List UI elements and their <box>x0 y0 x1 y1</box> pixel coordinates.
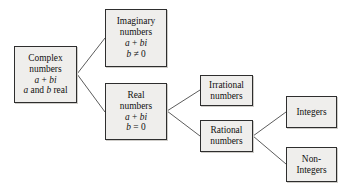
imaginary-plus-op: + <box>130 38 140 48</box>
node-non-integers[interactable]: Non- Integers <box>286 147 337 182</box>
node-imaginary-numbers[interactable]: Imaginary numbers a + bi b ≠ 0 <box>105 9 167 67</box>
node-real-line-4: b = 0 <box>126 122 145 133</box>
node-real-line-1: Real <box>127 90 144 101</box>
edge-real-irrational <box>167 90 200 111</box>
node-irrational-numbers[interactable]: Irrational numbers <box>200 75 253 106</box>
node-integers[interactable]: Integers <box>286 96 337 128</box>
complex-and-word: and <box>28 85 46 95</box>
edge-rational-integers <box>253 112 286 136</box>
real-condition: = 0 <box>131 122 146 132</box>
edge-complex-imaginary <box>77 38 105 74</box>
real-plus-op: + <box>130 112 140 122</box>
node-rational-numbers[interactable]: Rational numbers <box>200 120 253 152</box>
node-real-line-2: numbers <box>120 101 152 112</box>
imaginary-var-bi: bi <box>140 38 147 48</box>
node-integers-line-1: Integers <box>296 107 326 118</box>
complex-real-word: real <box>51 85 67 95</box>
node-real-numbers[interactable]: Real numbers a + bi b = 0 <box>105 83 167 140</box>
number-classification-diagram: Complex numbers a + bi a and b real Imag… <box>0 0 352 188</box>
imaginary-condition: ≠ 0 <box>131 49 146 59</box>
node-complex-line-2: numbers <box>29 64 61 75</box>
node-rational-line-1: Rational <box>211 125 243 136</box>
node-complex-line-4: a and b real <box>23 85 67 96</box>
node-imaginary-line-4: b ≠ 0 <box>126 49 145 60</box>
complex-plus-op: + <box>39 75 49 85</box>
node-nonintegers-line-1: Non- <box>302 154 321 165</box>
edge-complex-real <box>77 74 105 112</box>
edge-rational-nonintegers <box>253 136 286 164</box>
complex-var-bi: bi <box>49 75 56 85</box>
node-irrational-line-1: Irrational <box>209 80 244 91</box>
node-imaginary-line-3: a + bi <box>125 38 147 49</box>
node-imaginary-line-2: numbers <box>120 27 152 38</box>
node-complex-line-3: a + bi <box>35 75 57 86</box>
node-complex-line-1: Complex <box>28 53 62 64</box>
node-imaginary-line-1: Imaginary <box>117 16 156 27</box>
edge-real-rational <box>167 111 200 136</box>
node-rational-line-2: numbers <box>210 136 242 147</box>
node-real-line-3: a + bi <box>125 112 147 123</box>
node-irrational-line-2: numbers <box>210 91 242 102</box>
node-nonintegers-line-2: Integers <box>296 165 326 176</box>
real-var-bi: bi <box>140 112 147 122</box>
node-complex-numbers[interactable]: Complex numbers a + bi a and b real <box>14 46 77 103</box>
